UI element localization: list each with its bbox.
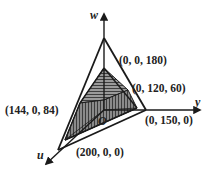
y-axis-label: y [193, 95, 201, 109]
w-axis-label: w [90, 8, 99, 22]
label-w-top: (0, 0, 180) [119, 54, 167, 67]
label-u-point: (200, 0, 0) [76, 146, 124, 159]
label-uw-point: (144, 0, 84) [5, 104, 59, 117]
u-axis-label: u [37, 148, 44, 162]
shaded-region [65, 68, 137, 140]
label-y-point: (0, 150, 0) [145, 114, 193, 127]
label-yw-point: (0, 120, 60) [132, 82, 186, 95]
origin-label: O [98, 114, 107, 128]
tetrahedron-diagram: w y u O (0, 0, 180) (0, 120, 60) (144, 0… [0, 0, 209, 176]
